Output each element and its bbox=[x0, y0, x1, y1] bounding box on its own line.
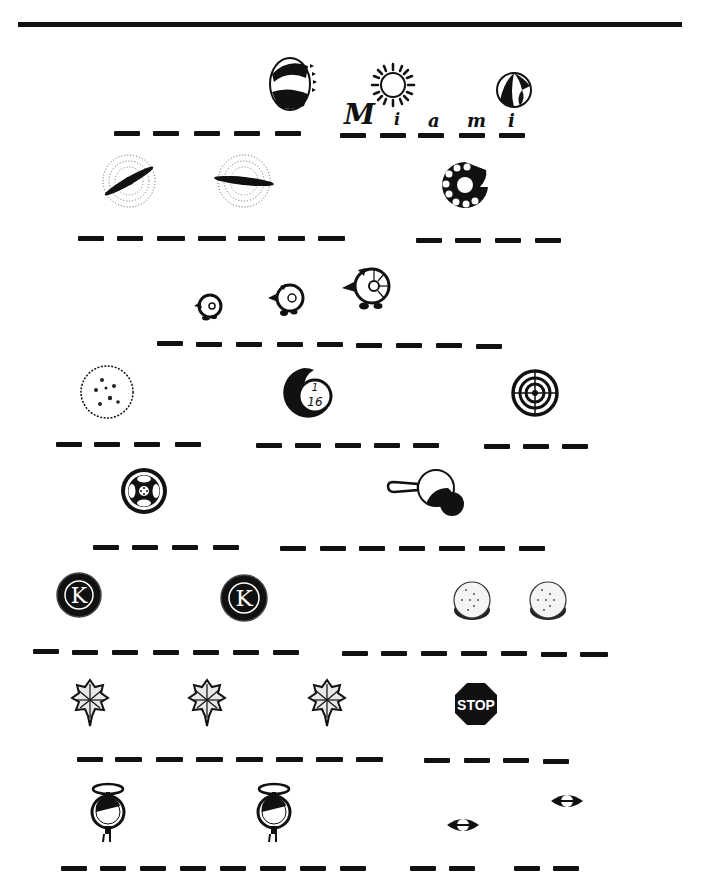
answer-blank[interactable] bbox=[94, 442, 120, 447]
answer-blank[interactable] bbox=[78, 236, 104, 241]
answer-blank[interactable] bbox=[553, 866, 579, 871]
answer-blank[interactable] bbox=[114, 131, 140, 136]
answer-blank[interactable] bbox=[418, 133, 444, 138]
answer-blank[interactable] bbox=[499, 133, 525, 138]
answer-blank[interactable] bbox=[198, 236, 226, 241]
answer-blank[interactable] bbox=[503, 758, 529, 763]
answer-blank[interactable] bbox=[172, 545, 198, 550]
answer-blank[interactable] bbox=[495, 238, 521, 243]
answer-blank[interactable] bbox=[236, 757, 263, 762]
answer-blank[interactable] bbox=[340, 133, 366, 138]
answer-blank[interactable] bbox=[380, 133, 406, 138]
large-turtle-icon bbox=[340, 266, 392, 312]
answer-blank[interactable] bbox=[300, 866, 326, 871]
answer-blank[interactable] bbox=[196, 342, 222, 347]
svg-text:K: K bbox=[71, 583, 88, 608]
answer-blank[interactable] bbox=[278, 236, 305, 241]
kiwanis-k-icon: K bbox=[220, 574, 268, 622]
answer-blank[interactable] bbox=[464, 758, 490, 763]
answer-blank[interactable] bbox=[140, 866, 166, 871]
answer-blank[interactable] bbox=[410, 866, 436, 871]
svg-text:16: 16 bbox=[307, 395, 323, 409]
answer-blank[interactable] bbox=[519, 546, 545, 551]
answer-blank[interactable] bbox=[234, 131, 260, 136]
answer-blank[interactable] bbox=[543, 759, 569, 764]
answer-blank[interactable] bbox=[374, 443, 400, 448]
answer-blank[interactable] bbox=[277, 342, 303, 347]
answer-blank[interactable] bbox=[194, 131, 220, 136]
answer-blank[interactable] bbox=[256, 443, 282, 448]
answer-blank[interactable] bbox=[455, 238, 481, 243]
answer-blank[interactable] bbox=[77, 757, 103, 762]
answer-blank[interactable] bbox=[61, 866, 87, 871]
answer-blank[interactable] bbox=[275, 131, 301, 136]
answer-blank[interactable] bbox=[134, 442, 160, 447]
answer-blank[interactable] bbox=[260, 866, 286, 871]
answer-blank[interactable] bbox=[484, 444, 510, 449]
answer-blank[interactable] bbox=[233, 650, 259, 655]
answer-blank[interactable] bbox=[399, 546, 425, 551]
answer-blank[interactable] bbox=[335, 443, 361, 448]
answer-blank[interactable] bbox=[416, 238, 442, 243]
answer-blank[interactable] bbox=[157, 236, 185, 241]
answer-blank[interactable] bbox=[535, 238, 561, 243]
answer-blank[interactable] bbox=[295, 443, 321, 448]
answer-blank[interactable] bbox=[436, 343, 462, 348]
answer-blank[interactable] bbox=[180, 866, 206, 871]
answer-blank[interactable] bbox=[342, 651, 368, 656]
answer-blank[interactable] bbox=[396, 343, 422, 348]
answer-blank[interactable] bbox=[56, 442, 82, 447]
answer-blank[interactable] bbox=[449, 866, 475, 871]
answer-blank[interactable] bbox=[562, 444, 588, 449]
answer-blank[interactable] bbox=[359, 546, 385, 551]
answer-blank[interactable] bbox=[316, 757, 343, 762]
answer-blank[interactable] bbox=[93, 545, 119, 550]
answer-blank[interactable] bbox=[501, 651, 527, 656]
answer-blank[interactable] bbox=[479, 546, 505, 551]
answer-blank[interactable] bbox=[220, 866, 246, 871]
answer-blank[interactable] bbox=[421, 651, 447, 656]
coin-stack-icon bbox=[452, 580, 492, 622]
answer-blank[interactable] bbox=[439, 546, 465, 551]
answer-blank[interactable] bbox=[238, 236, 265, 241]
answer-blank[interactable] bbox=[318, 236, 345, 241]
answer-blank[interactable] bbox=[424, 758, 450, 763]
answer-blank[interactable] bbox=[196, 757, 223, 762]
answer-blank[interactable] bbox=[153, 131, 179, 136]
answer-blank[interactable] bbox=[213, 545, 239, 550]
answer-blank[interactable] bbox=[381, 651, 407, 656]
answer-blank[interactable] bbox=[115, 757, 142, 762]
answer-blank[interactable] bbox=[273, 650, 299, 655]
answer-blank[interactable] bbox=[236, 342, 262, 347]
answer-blank[interactable] bbox=[356, 343, 382, 348]
answer-blank[interactable] bbox=[320, 546, 346, 551]
answer-blank[interactable] bbox=[461, 651, 487, 656]
answer-blank[interactable] bbox=[317, 342, 343, 347]
answer-blank[interactable] bbox=[100, 866, 126, 871]
medium-turtle-icon bbox=[266, 282, 306, 318]
answer-blank[interactable] bbox=[193, 650, 219, 655]
stop-sign-icon: STOP bbox=[454, 682, 498, 726]
answer-blank[interactable] bbox=[153, 650, 179, 655]
answer-blank[interactable] bbox=[132, 545, 158, 550]
answer-blank[interactable] bbox=[459, 133, 485, 138]
propeller-icon bbox=[100, 152, 158, 210]
answer-blank[interactable] bbox=[156, 757, 183, 762]
answer-blank[interactable] bbox=[580, 652, 608, 657]
answer-blank[interactable] bbox=[276, 757, 303, 762]
answer-blank[interactable] bbox=[157, 341, 183, 346]
answer-blank[interactable] bbox=[33, 649, 59, 654]
answer-blank[interactable] bbox=[175, 442, 201, 447]
answer-blank[interactable] bbox=[413, 443, 439, 448]
answer-blank[interactable] bbox=[476, 344, 502, 349]
answer-blank[interactable] bbox=[541, 652, 567, 657]
answer-blank[interactable] bbox=[117, 236, 143, 241]
kiwanis-k-icon: K bbox=[56, 572, 102, 618]
answer-blank[interactable] bbox=[280, 546, 306, 551]
answer-blank[interactable] bbox=[340, 866, 366, 871]
answer-blank[interactable] bbox=[72, 650, 98, 655]
answer-blank[interactable] bbox=[523, 444, 549, 449]
answer-blank[interactable] bbox=[112, 650, 138, 655]
answer-blank[interactable] bbox=[356, 757, 383, 762]
answer-blank[interactable] bbox=[514, 866, 540, 871]
